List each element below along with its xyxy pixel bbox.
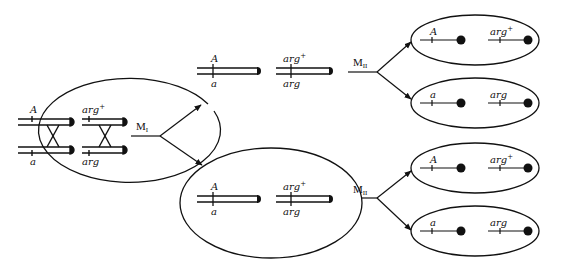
label-arg-plus: arg+ — [283, 180, 306, 192]
centromere-icon — [457, 227, 466, 236]
label-arg: arg — [82, 156, 99, 167]
centromere-icon — [123, 146, 127, 154]
stage-label-MII: MII — [353, 183, 368, 197]
cell-bottom: A a arg+ arg — [180, 148, 362, 258]
label-a: a — [430, 89, 436, 100]
gamete-2: a arg — [411, 78, 539, 128]
label-a: a — [211, 206, 217, 217]
label-a: a — [430, 217, 436, 228]
label-arg: arg — [283, 206, 300, 217]
label-A: A — [210, 181, 218, 192]
gamete-1: A arg+ — [411, 15, 539, 65]
meiosis-diagram: A a arg+ arg MI A a arg+ arg — [0, 0, 563, 276]
label-A: A — [429, 154, 437, 165]
meiosis2-branch-top — [348, 42, 411, 99]
label-arg: arg — [283, 78, 300, 89]
label-arg-plus: arg+ — [82, 103, 105, 115]
label-arg-plus: arg+ — [490, 153, 513, 165]
meiosis2-branch-bottom — [362, 171, 411, 230]
label-arg-plus: arg+ — [283, 52, 306, 64]
gamete-4: a arg — [411, 206, 539, 256]
centromere-icon — [123, 118, 127, 126]
cell-membrane — [39, 78, 221, 182]
parent-bivalent — [18, 116, 127, 156]
centromere-icon — [70, 118, 74, 126]
centromere-icon — [457, 99, 466, 108]
centromere-icon — [524, 164, 533, 173]
centromere-icon — [524, 99, 533, 108]
centromere-icon — [329, 195, 333, 203]
centromere-icon — [524, 36, 533, 45]
stage-label-MII: MII — [353, 56, 368, 70]
label-A: A — [429, 26, 437, 37]
chromosome-A-upper — [18, 116, 71, 125]
label-A: A — [29, 104, 37, 115]
label-a: a — [211, 78, 217, 89]
chromosome-arg-lower — [82, 147, 124, 156]
label-A: A — [210, 53, 218, 64]
stage-label-MI: MI — [136, 120, 149, 134]
chromosome-arg-plus-upper — [82, 116, 124, 125]
centromere-icon — [329, 67, 333, 75]
centromere-icon — [524, 227, 533, 236]
label-a: a — [30, 156, 36, 167]
cell-membrane — [180, 148, 362, 258]
meiosis1-branch — [131, 105, 202, 165]
label-arg: arg — [490, 217, 507, 228]
centromere-icon — [457, 164, 466, 173]
centromere-icon — [257, 67, 261, 75]
centromere-icon — [70, 146, 74, 154]
gamete-3: A arg+ — [411, 143, 539, 193]
label-arg: arg — [490, 89, 507, 100]
label-arg-plus: arg+ — [490, 25, 513, 37]
centromere-icon — [457, 36, 466, 45]
centromere-icon — [257, 195, 261, 203]
